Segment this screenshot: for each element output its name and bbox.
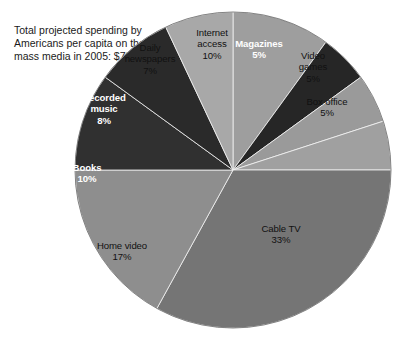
pie-chart-figure: Total projected spending by Americans pe… <box>0 0 411 344</box>
pie-graphic <box>0 0 411 344</box>
